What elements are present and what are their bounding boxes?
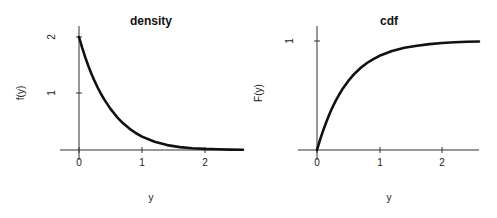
- density-y-label: f(y): [15, 86, 26, 100]
- cdf-x-tick-label-2: 2: [439, 157, 445, 168]
- cdf-curve: [317, 42, 479, 151]
- cdf-y-tick-label-1: 1: [284, 38, 295, 44]
- density-x-tick-label-0: 0: [76, 157, 82, 168]
- density-x-tick-label-1: 1: [139, 157, 145, 168]
- density-title: density: [130, 14, 172, 28]
- chart-canvas: density 0 1 2 1 2 y f(y) cdf 0 1 2: [0, 0, 497, 218]
- density-x-label: y: [149, 192, 154, 203]
- cdf-panel: cdf 0 1 2 1 y F(y): [253, 14, 479, 203]
- cdf-x-label: y: [387, 192, 392, 203]
- density-panel: density 0 1 2 1 2 y f(y): [15, 14, 243, 203]
- density-y-tick-label-2: 2: [46, 34, 57, 40]
- density-y-tick-label-1: 1: [46, 90, 57, 96]
- cdf-y-label: F(y): [253, 84, 264, 102]
- cdf-x-tick-label-0: 0: [314, 157, 320, 168]
- density-x-tick-label-2: 2: [202, 157, 208, 168]
- cdf-title: cdf: [380, 14, 399, 28]
- density-curve: [79, 37, 243, 150]
- cdf-x-tick-label-1: 1: [377, 157, 383, 168]
